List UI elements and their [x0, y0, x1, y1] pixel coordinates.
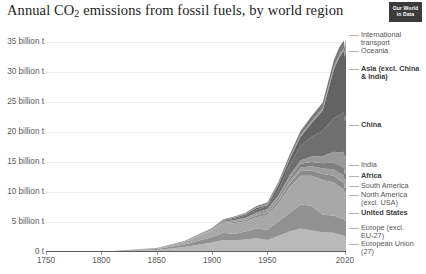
legend-leader-line	[349, 51, 359, 52]
x-axis-tick-label: 1850	[148, 256, 166, 265]
x-axis-tick-label: 1900	[203, 256, 221, 265]
x-axis-tick	[101, 252, 102, 255]
legend-leader-line	[349, 244, 359, 245]
legend-leader-line	[349, 69, 359, 70]
y-axis-tick-label: 20 billion t	[0, 127, 44, 136]
legend-item-label[interactable]: Africa	[361, 172, 382, 180]
legend-leader-line	[349, 228, 359, 229]
legend-leader-line	[349, 186, 359, 187]
legend-leader-line	[349, 176, 359, 177]
x-axis-tick	[157, 252, 158, 255]
y-axis-tick-label: 35 billion t	[0, 37, 44, 46]
x-axis-tick-label: 1750	[37, 256, 55, 265]
y-axis-tick-label: 0 t	[0, 247, 44, 256]
y-axis-tick-label: 25 billion t	[0, 97, 44, 106]
legend-leader-line	[349, 125, 359, 126]
owid-logo[interactable]: Our World in Data	[389, 2, 422, 22]
x-axis-tick-label: 1950	[258, 256, 276, 265]
x-axis-tick-label: 2020	[336, 256, 354, 265]
x-axis-tick	[46, 252, 47, 255]
page-title: Annual CO2 emissions from fossil fuels, …	[7, 2, 343, 19]
legend-leader-line	[349, 195, 359, 196]
title-text-main: Annual CO	[7, 2, 74, 18]
chart-root: Annual CO2 emissions from fossil fuels, …	[0, 0, 426, 274]
legend-leader-line	[349, 165, 359, 166]
legend-item-label[interactable]: North America (excl. USA)	[361, 191, 407, 208]
legend-item-label[interactable]: United States	[361, 209, 408, 217]
legend-item-label[interactable]: European Union (27)	[361, 240, 414, 257]
y-axis-tick-label: 15 billion t	[0, 157, 44, 166]
x-axis-tick-label: 1800	[92, 256, 110, 265]
legend-item-label[interactable]: India	[361, 161, 377, 169]
title-text-rest: emissions from fossil fuels, by world re…	[79, 2, 343, 18]
x-axis-tick	[212, 252, 213, 255]
legend-item-label[interactable]: China	[361, 121, 381, 129]
y-axis-tick-label: 5 billion t	[0, 217, 44, 226]
owid-logo-line2: in Data	[389, 11, 422, 17]
legend-item-label[interactable]: Oceania	[361, 47, 388, 55]
stacked-area-series	[46, 30, 346, 252]
legend-item-label[interactable]: Asia (excl. China & India)	[361, 65, 419, 82]
x-axis-tick	[345, 252, 346, 255]
plot-area	[46, 30, 346, 252]
x-axis-tick	[267, 252, 268, 255]
legend-leader-line	[349, 213, 359, 214]
legend-leader-line	[349, 35, 359, 36]
y-axis-tick-label: 10 billion t	[0, 187, 44, 196]
y-axis-tick-label: 30 billion t	[0, 67, 44, 76]
title-subscript: 2	[74, 8, 79, 19]
x-axis-line	[46, 251, 346, 252]
